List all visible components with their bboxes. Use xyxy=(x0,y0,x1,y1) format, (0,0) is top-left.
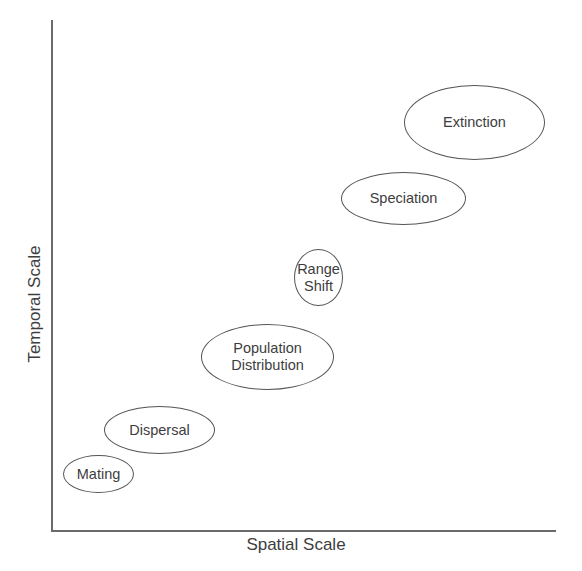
y-axis-label: Temporal Scale xyxy=(25,204,45,404)
node-extinction: Extinction xyxy=(404,85,545,160)
node-label: Mating xyxy=(77,466,121,483)
node-label: Speciation xyxy=(370,190,438,207)
x-axis xyxy=(51,530,556,532)
x-axis-label: Spatial Scale xyxy=(196,535,396,555)
y-axis xyxy=(51,20,53,532)
node-label: Range Shift xyxy=(297,261,340,295)
node-range-shift: Range Shift xyxy=(294,249,343,306)
node-population-distribution: Population Distribution xyxy=(201,324,334,390)
scale-diagram: Mating Dispersal Population Distribution… xyxy=(0,0,582,571)
node-dispersal: Dispersal xyxy=(104,406,215,454)
node-speciation: Speciation xyxy=(341,172,466,225)
node-mating: Mating xyxy=(63,455,134,493)
node-label: Population Distribution xyxy=(231,340,304,374)
node-label: Dispersal xyxy=(129,422,189,439)
node-label: Extinction xyxy=(443,114,506,131)
